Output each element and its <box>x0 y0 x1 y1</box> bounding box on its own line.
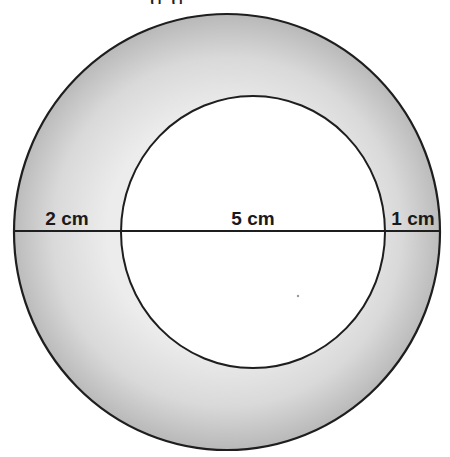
label-left-gap: 2 cm <box>45 208 88 230</box>
speck <box>297 295 299 297</box>
label-right-gap: 1 cm <box>391 208 434 230</box>
annulus-diagram: g g 2 cm 5 cm 1 cm <box>0 0 450 457</box>
label-inner-diameter: 5 cm <box>231 208 274 230</box>
cropped-title-text: g g <box>150 0 450 4</box>
